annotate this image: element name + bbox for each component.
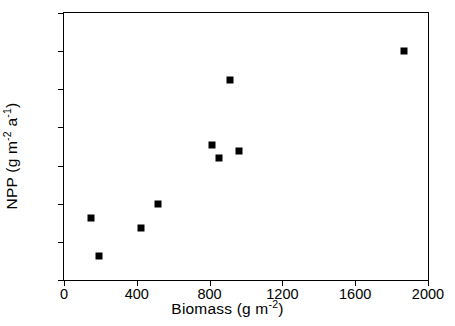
data-point-marker bbox=[154, 201, 161, 208]
data-point-marker bbox=[88, 215, 95, 222]
data-point-marker bbox=[138, 225, 145, 232]
data-point-marker bbox=[215, 154, 222, 161]
scatter-chart-figure: 0501001502002503003500400800120016002000… bbox=[0, 0, 455, 326]
y-axis-tick bbox=[58, 242, 64, 243]
y-axis-tick bbox=[58, 204, 64, 205]
y-axis-title: NPP (g m-2 a-1) bbox=[3, 56, 21, 256]
data-point-marker bbox=[401, 48, 408, 55]
y-axis-tick bbox=[58, 13, 64, 14]
plot-area: 0501001502002503003500400800120016002000 bbox=[63, 12, 429, 281]
data-point-marker bbox=[209, 141, 216, 148]
data-point-marker bbox=[235, 148, 242, 155]
data-point-marker bbox=[226, 77, 233, 84]
x-axis-title: Biomass (g m-2) bbox=[0, 300, 455, 318]
y-axis-tick bbox=[58, 51, 64, 52]
y-axis-tick bbox=[58, 127, 64, 128]
data-point-marker bbox=[95, 252, 102, 259]
y-axis-tick bbox=[58, 166, 64, 167]
y-axis-tick bbox=[58, 89, 64, 90]
